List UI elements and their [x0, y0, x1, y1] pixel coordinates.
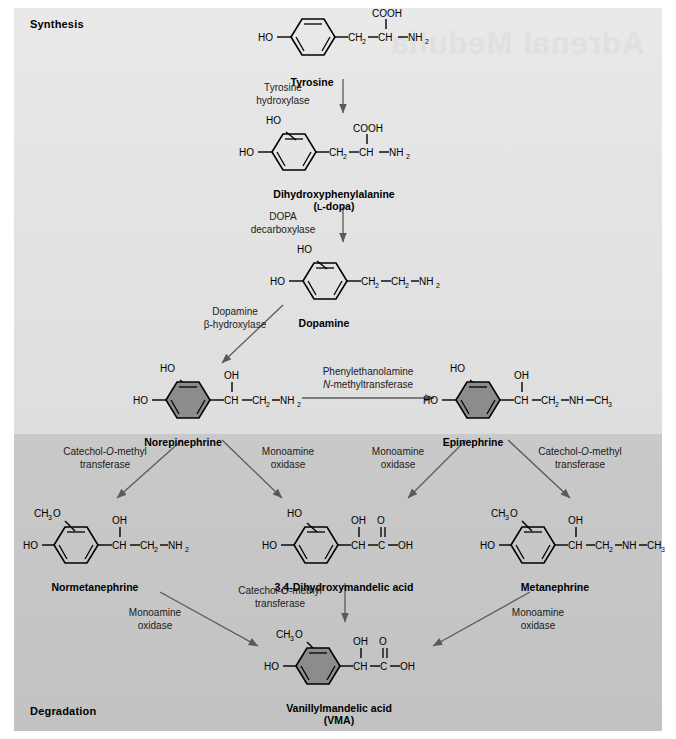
atom-label: NH [419, 276, 433, 287]
enzyme-line-1: Dopamine [185, 306, 285, 319]
atom-subscript: 3 [608, 401, 612, 408]
atom-label: CH [568, 540, 582, 551]
atom-label: CH [594, 395, 608, 406]
atom-subscript: 3 [661, 546, 665, 553]
molecule-metanephrine: CH 3 O HO CH OH CH 2 NH CH 3 Metanephrin… [475, 505, 670, 593]
atom-label: OH [398, 540, 413, 551]
atom-subscript: 2 [609, 546, 613, 553]
enzyme-line-2: transferase [515, 459, 645, 472]
enzyme-line-1: Catechol-O-methyl [515, 446, 645, 459]
atom-label: HO [262, 540, 277, 551]
atom-label: CH [361, 276, 375, 287]
atom-label: CH [34, 508, 48, 519]
enzyme-line-2: transferase [40, 459, 170, 472]
atom-label: HO [239, 147, 254, 158]
enzyme-line-1: Monoamine [105, 607, 205, 620]
epinephrine-structure: HO HO CH OH CH 2 NH CH 3 [418, 360, 618, 430]
atom-label: CH [140, 540, 154, 551]
enzyme-line-1: Tyrosine [238, 82, 328, 95]
enzyme-line-2: oxidase [488, 620, 588, 633]
atom-subscript: 2 [375, 282, 379, 289]
enzyme-dopa-decarboxylase: DOPA decarboxylase [238, 211, 328, 236]
atom-label: CH [391, 276, 405, 287]
ldopa-structure: HO HO CH 2 CH NH 2 COOH [234, 112, 434, 182]
atom-label: OH [568, 515, 583, 526]
atom-label: O [510, 508, 518, 519]
enzyme-line-1: DOPA [238, 211, 328, 224]
atom-subscript: 2 [425, 38, 429, 45]
enzyme-line-1: Catechol-O-methyl [216, 585, 344, 598]
atom-label: HO [264, 661, 279, 672]
enzyme-line-1: Monoamine [348, 446, 448, 459]
atom-label: NH [408, 32, 422, 43]
atom-label: CH [276, 629, 290, 640]
atom-label: OH [351, 515, 366, 526]
atom-label: CH [112, 540, 126, 551]
tyrosine-structure: HO CH 2 CH NH 2 COOH [258, 8, 438, 70]
enzyme-line-1: Catechol-O-methyl [40, 446, 170, 459]
atom-subscript: 3 [48, 514, 52, 521]
molecule-name: Vanillylmandelic acid [244, 702, 434, 714]
atom-label: HO [287, 508, 302, 519]
atom-subscript: 2 [362, 38, 366, 45]
enzyme-mao-metanephrine: Monoamine oxidase [488, 607, 588, 632]
figure-catecholamine-pathway: Adrenal Medulla Synthesis Degradation [0, 0, 676, 739]
atom-subscript: 3 [505, 514, 509, 521]
atom-label: O [377, 515, 385, 526]
enzyme-line-1: Monoamine [238, 446, 338, 459]
atom-label: HO [133, 395, 148, 406]
atom-label: CH [351, 540, 365, 551]
atom-label: CH [329, 147, 343, 158]
enzyme-line-2: β-hydroxylase [185, 319, 285, 332]
enzyme-line-2: oxidase [105, 620, 205, 633]
atom-label: CH [647, 540, 661, 551]
enzyme-line-2-rest: -methyltransferase [330, 379, 413, 390]
atom-subscript: 2 [555, 401, 559, 408]
enzyme-line-2: hydroxylase [238, 95, 328, 108]
atom-label: HO [450, 363, 465, 374]
molecule-name-secondary: (VMA) [244, 714, 434, 726]
molecule-epinephrine: HO HO CH OH CH 2 NH CH 3 Epinephrine [418, 360, 618, 448]
atom-label: C [378, 540, 385, 551]
atom-subscript: 2 [436, 282, 440, 289]
atom-label: CH [348, 32, 362, 43]
molecule-dopamine: HO HO CH 2 CH 2 NH 2 Dopamine [265, 241, 455, 329]
atom-subscript: 2 [406, 153, 410, 160]
atom-label: CH [491, 508, 505, 519]
molecule-name: Metanephrine [465, 581, 645, 593]
atom-label: OH [112, 515, 127, 526]
atom-label: NH [389, 147, 403, 158]
enzyme-pnmt: Phenylethanolamine N-methyltransferase [298, 366, 438, 391]
atom-label: CH [514, 395, 528, 406]
molecule-name: Normetanephrine [0, 581, 190, 593]
atom-label: O [295, 629, 303, 640]
enzyme-comt-dhma: Catechol-O-methyl transferase [216, 585, 344, 610]
atom-subscript: 2 [343, 153, 347, 160]
degradation-label: Degradation [30, 705, 96, 717]
enzyme-line-2: oxidase [238, 459, 338, 472]
atom-subscript: 2 [297, 401, 301, 408]
atom-label: CH [224, 395, 238, 406]
atom-label: CH [252, 395, 266, 406]
atom-label: HO [266, 115, 281, 126]
atom-label: OH [353, 636, 368, 647]
atom-label: COOH [353, 123, 383, 134]
atom-subscript: 3 [290, 635, 294, 642]
metanephrine-structure: CH 3 O HO CH OH CH 2 NH CH 3 [475, 505, 670, 575]
synthesis-label: Synthesis [30, 18, 84, 30]
enzyme-line-2: transferase [216, 598, 344, 611]
atom-label: NH [622, 540, 636, 551]
atom-label: O [53, 508, 61, 519]
atom-label: NH [569, 395, 583, 406]
atom-label: OH [514, 370, 529, 381]
dopamine-structure: HO HO CH 2 CH 2 NH 2 [265, 241, 455, 311]
atom-label: HO [23, 540, 38, 551]
molecule-tyrosine: HO CH 2 CH NH 2 COOH Tyrosine [258, 8, 438, 88]
norepinephrine-structure: HO HO CH OH CH 2 NH 2 [128, 360, 318, 430]
enzyme-line-2: N-methyltransferase [298, 379, 438, 392]
atom-label: CH [353, 661, 367, 672]
atom-label: CH [378, 32, 392, 43]
enzyme-line-1: Phenylethanolamine [298, 366, 438, 379]
enzyme-dopamine-beta-hydroxylase: Dopamine β-hydroxylase [185, 306, 285, 331]
normetanephrine-structure: CH 3 O HO CH OH CH 2 NH 2 [18, 505, 208, 575]
